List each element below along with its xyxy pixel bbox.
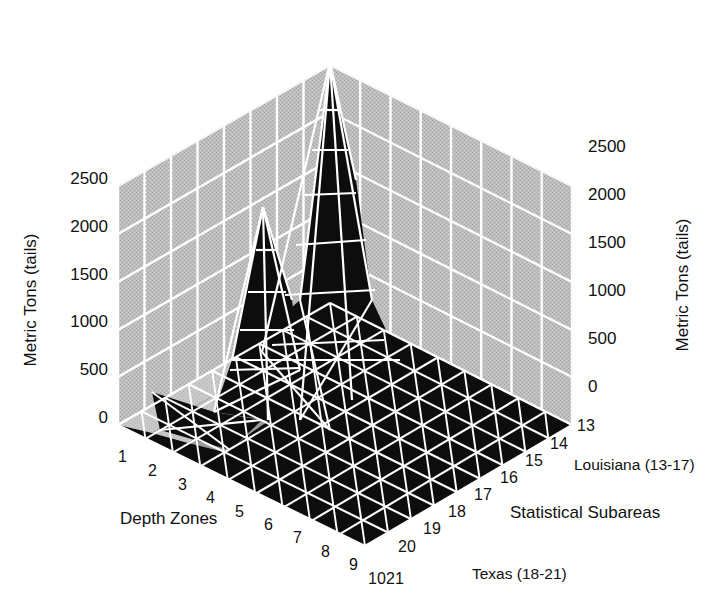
depth-tick-3: 3 <box>178 476 187 493</box>
surface-plot-figure: 2500 2000 1500 1000 500 0 Metric Tons (t… <box>0 0 720 605</box>
z-right-tick-5: 0 <box>588 377 597 396</box>
z-right-tick-2: 1500 <box>588 233 626 252</box>
plot-canvas: 2500 2000 1500 1000 500 0 Metric Tons (t… <box>0 0 720 605</box>
depth-tick-7: 7 <box>293 529 302 546</box>
depth-tick-1: 1 <box>118 448 127 465</box>
z-left-tick-2: 1500 <box>70 265 108 284</box>
depth-tick-9: 9 <box>349 556 358 573</box>
subarea-tick-13: 13 <box>577 417 595 434</box>
y-axis-subarea-title: Statistical Subareas <box>510 503 660 522</box>
z-left-tick-3: 1000 <box>70 312 108 331</box>
z-axis-right-title: Metric Tons (tails) <box>673 219 692 352</box>
subarea-tick-18: 18 <box>448 503 466 520</box>
subarea-tick-19: 19 <box>423 520 441 537</box>
z-left-tick-5: 0 <box>99 408 108 427</box>
z-right-tick-1: 2000 <box>588 185 626 204</box>
depth-tick-2: 2 <box>148 462 157 479</box>
depth-tick-4: 4 <box>206 489 215 506</box>
z-axis-left-title: Metric Tons (tails) <box>21 234 40 367</box>
z-right-tick-4: 500 <box>588 329 616 348</box>
depth-tick-6: 6 <box>264 516 273 533</box>
subarea-tick-17: 17 <box>474 486 492 503</box>
z-right-tick-3: 1000 <box>588 281 626 300</box>
subarea-tick-15: 15 <box>525 452 543 469</box>
z-left-tick-0: 2500 <box>70 169 108 188</box>
z-right-tick-0: 2500 <box>588 137 626 156</box>
subarea-tick-20: 20 <box>398 538 416 555</box>
depth-tick-8: 8 <box>321 543 330 560</box>
region-label-louisiana: Louisiana (13-17) <box>574 456 695 473</box>
z-left-tick-4: 500 <box>80 360 108 379</box>
depth-tick-10: 10 <box>368 570 386 587</box>
depth-tick-5: 5 <box>235 503 244 520</box>
subarea-tick-16: 16 <box>500 469 518 486</box>
x-axis-depth-title: Depth Zones <box>120 509 217 528</box>
region-label-texas: Texas (18-21) <box>472 565 567 582</box>
subarea-tick-21: 21 <box>386 570 404 587</box>
z-left-tick-1: 2000 <box>70 217 108 236</box>
subarea-tick-14: 14 <box>550 435 568 452</box>
